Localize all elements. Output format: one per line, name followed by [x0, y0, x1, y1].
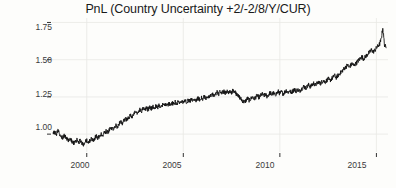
x-tick-label: 2005	[152, 160, 192, 170]
x-tick-label: 2010	[245, 160, 285, 170]
y-tick-label: 1.75	[18, 22, 52, 32]
y-tick-label: 1.50	[18, 55, 52, 65]
x-tick-label: 2015	[337, 160, 377, 170]
y-tick-label: 1.00	[18, 122, 52, 132]
series-line-pnl	[53, 28, 386, 146]
y-tick-label: 1.25	[18, 89, 52, 99]
chart-figure: PnL (Country Uncertainty +2/-2/8/Y/CUR) …	[0, 0, 396, 188]
gridlines	[52, 18, 388, 152]
x-tick-label: 2000	[60, 160, 100, 170]
chart-title: PnL (Country Uncertainty +2/-2/8/Y/CUR)	[0, 2, 396, 16]
x-axis-labels: 2000 2005 2010 2015	[0, 160, 396, 178]
